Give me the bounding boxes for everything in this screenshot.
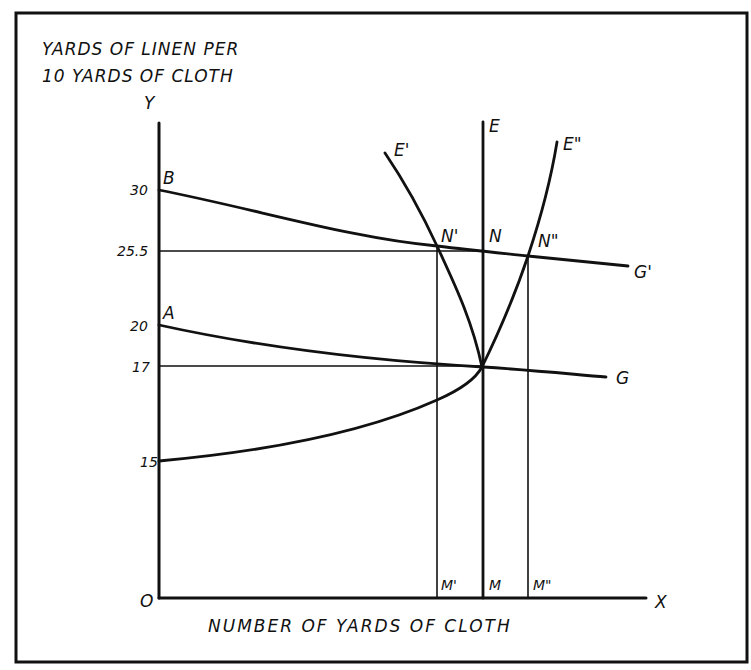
curve-b-g-prime (159, 190, 628, 266)
y-tick-15: 15 (140, 454, 158, 470)
y-tick-30: 30 (130, 182, 148, 198)
label-n-double-prime: N" (538, 231, 559, 251)
economic-diagram: YARDS OF LINEN PER 10 YARDS OF CLOTH Y O… (0, 0, 751, 670)
label-g: G (616, 368, 629, 388)
y-axis-title-line1: YARDS OF LINEN PER (42, 39, 239, 59)
diagram-canvas: YARDS OF LINEN PER 10 YARDS OF CLOTH Y O… (0, 0, 751, 670)
label-n-prime: N' (441, 226, 458, 246)
x-axis-label: X (654, 592, 667, 612)
y-axis-label: Y (144, 93, 156, 113)
label-e-prime: E' (394, 140, 409, 160)
curve-e-double-prime (159, 142, 557, 461)
label-a: A (162, 303, 175, 323)
figure-border (16, 13, 747, 662)
label-e-double-prime: E" (563, 134, 582, 154)
label-m: M (489, 577, 501, 593)
label-e: E (489, 116, 500, 136)
curve-a-g (159, 325, 606, 377)
y-tick-25-5: 25.5 (117, 243, 148, 259)
label-n: N (489, 226, 502, 246)
label-b: B (163, 168, 175, 188)
y-tick-17: 17 (132, 359, 150, 375)
curve-e-prime (385, 153, 482, 367)
y-axis-title-line2: 10 YARDS OF CLOTH (42, 66, 234, 86)
label-m-double-prime: M" (533, 577, 552, 593)
label-m-prime: M' (441, 577, 457, 593)
origin-label: O (140, 591, 153, 611)
y-tick-20: 20 (130, 318, 148, 334)
label-g-prime: G' (634, 262, 652, 282)
x-axis-title: NUMBER OF YARDS OF CLOTH (208, 616, 512, 636)
